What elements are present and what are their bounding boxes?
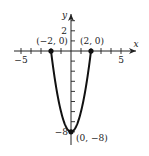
y-axis-label: y: [61, 10, 68, 20]
labels: yx−552−8(−2, 0)(2, 0)(0, −8): [14, 10, 138, 143]
point-label: (0, −8): [76, 133, 108, 143]
x-tick-label: −5: [14, 55, 28, 65]
point-label: (2, 0): [80, 36, 104, 46]
parabola-graph: yx−552−8(−2, 0)(2, 0)(0, −8): [0, 0, 149, 156]
point-label: (−2, 0): [36, 36, 68, 46]
axes: [14, 14, 136, 145]
y-tick-label: 2: [61, 26, 67, 36]
x-tick-label: 5: [118, 55, 124, 65]
data-point: [88, 48, 93, 53]
x-axis-label: x: [133, 39, 138, 49]
data-point: [68, 129, 73, 134]
data-point: [48, 48, 53, 53]
y-tick-label: −8: [55, 127, 69, 137]
